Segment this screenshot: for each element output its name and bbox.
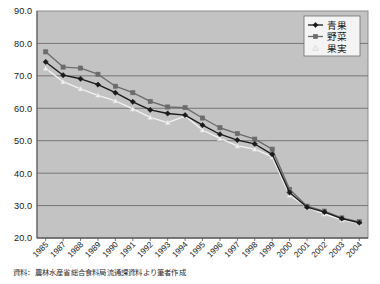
- source-note: 資料：農林水産省総合食料局流通課資料より筆者作成: [13, 266, 186, 277]
- data-point-marker: [235, 131, 239, 135]
- y-axis-tick-label: 50.0: [14, 136, 32, 146]
- y-axis-tick-label: 20.0: [14, 233, 32, 243]
- y-axis-tick-label: 40.0: [14, 169, 32, 179]
- x-axis-tick-label: 2000: [275, 240, 295, 260]
- legend-label: 青果: [327, 20, 347, 31]
- data-point-marker: [131, 91, 135, 95]
- data-point-marker: [270, 147, 274, 151]
- x-axis-tick-label: 1999: [258, 240, 278, 260]
- y-axis-tick-label: 70.0: [14, 71, 32, 81]
- x-axis-tick-label: 2002: [310, 240, 330, 260]
- data-point-marker: [166, 105, 170, 109]
- y-axis-tick-labels: 90.080.070.060.050.040.030.020.0: [14, 6, 32, 243]
- data-point-marker: [61, 65, 65, 69]
- data-point-marker: [253, 137, 257, 141]
- chart-container: 90.080.070.060.050.040.030.020.0 1985198…: [0, 0, 380, 284]
- y-axis-tick-label: 30.0: [14, 201, 32, 211]
- data-point-marker: [313, 34, 317, 38]
- x-axis-tick-label: 1998: [240, 240, 260, 260]
- y-axis-tick-label: 90.0: [14, 6, 32, 16]
- x-axis-tick-label: 1996: [205, 240, 225, 260]
- data-point-marker: [200, 116, 204, 120]
- data-point-marker: [78, 66, 82, 70]
- legend-label: 果実: [327, 43, 347, 54]
- line-chart: 90.080.070.060.050.040.030.020.0 1985198…: [0, 0, 380, 284]
- data-point-marker: [96, 72, 100, 76]
- x-axis-tick-label: 1985: [31, 240, 51, 260]
- data-point-marker: [148, 99, 152, 103]
- x-axis-tick-label: 2001: [292, 240, 312, 260]
- x-axis-tick-label: 1997: [223, 240, 243, 260]
- x-axis-tick-labels: 1985198719881989199019911992199319941995…: [31, 240, 364, 260]
- data-point-marker: [183, 106, 187, 110]
- x-axis-tick-label: 1992: [136, 240, 156, 260]
- y-axis-tick-label: 80.0: [14, 39, 32, 49]
- y-axis-tick-label: 60.0: [14, 104, 32, 114]
- x-axis-tick-label: 1994: [170, 240, 190, 260]
- x-axis-tick-label: 2003: [327, 240, 347, 260]
- x-axis-tick-label: 1991: [118, 240, 138, 260]
- data-point-marker: [113, 84, 117, 88]
- x-axis-tick-label: 1993: [153, 240, 173, 260]
- legend-label: 野菜: [327, 31, 347, 42]
- x-axis-tick-label: 1995: [188, 240, 208, 260]
- x-axis-tick-label: 1988: [66, 240, 86, 260]
- data-point-marker: [44, 50, 48, 54]
- x-axis-tick-label: 1990: [101, 240, 121, 260]
- x-axis-tick-label: 2004: [345, 240, 365, 260]
- x-axis-tick-label: 1989: [83, 240, 103, 260]
- data-point-marker: [218, 126, 222, 130]
- x-axis-tick-label: 1987: [48, 240, 68, 260]
- chart-legend: 青果野菜果実: [304, 16, 360, 56]
